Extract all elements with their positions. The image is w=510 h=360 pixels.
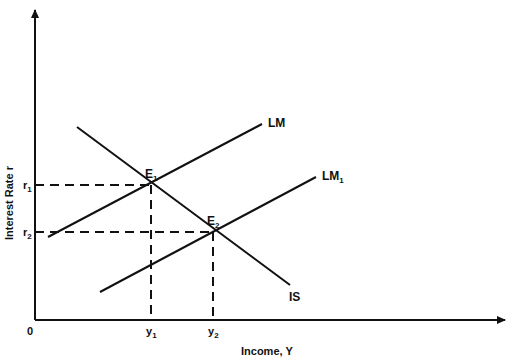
r2-tick-label: r2 — [23, 226, 32, 241]
is-lm-diagram: LM LM1 IS E1 E2 r1 r2 0 y1 y2 Income, Y … — [0, 0, 510, 360]
y-axis-title: Interest Rate r — [3, 165, 15, 240]
origin-label: 0 — [27, 325, 33, 337]
e1-point-label: E1 — [145, 167, 158, 183]
is-curve — [77, 127, 290, 285]
y1-tick-label: y1 — [146, 325, 157, 340]
x-axis-title: Income, Y — [241, 345, 293, 357]
lm-curve-label: LM — [268, 116, 285, 130]
lm1-curve — [100, 177, 316, 292]
lm1-curve-label: LM1 — [322, 169, 344, 185]
is-curve-label: IS — [289, 290, 300, 304]
y2-tick-label: y2 — [208, 325, 219, 340]
r1-tick-label: r1 — [23, 179, 32, 194]
e2-point-label: E2 — [207, 214, 220, 230]
